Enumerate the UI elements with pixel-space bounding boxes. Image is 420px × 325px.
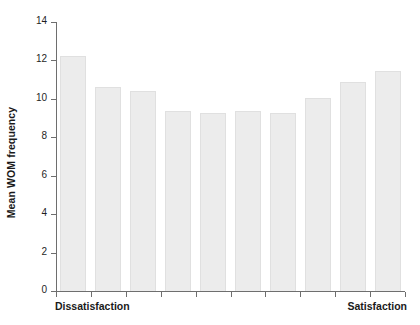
y-axis-line: [56, 22, 57, 292]
bar: [200, 113, 226, 291]
x-axis-tick: [231, 292, 232, 297]
plot-area: 02468101214 Dissatisfaction Satisfaction: [56, 22, 405, 291]
y-axis-tick-label: 8: [41, 130, 47, 141]
bar: [165, 111, 191, 291]
bar: [95, 87, 121, 291]
x-axis-tick: [161, 292, 162, 297]
bar: [305, 98, 331, 291]
x-axis-tick: [91, 292, 92, 297]
y-axis-tick-label: 14: [36, 15, 47, 26]
bar: [130, 91, 156, 291]
y-axis-title: Mean WOM frequency: [0, 0, 22, 325]
bar: [270, 113, 296, 291]
y-axis-tick: 14: [51, 22, 56, 23]
x-axis-tick: [300, 292, 301, 297]
y-axis-tick-label: 2: [41, 246, 47, 257]
bar: [60, 56, 86, 291]
y-axis-tick-label: 12: [36, 53, 47, 64]
y-axis-tick: 2: [51, 253, 56, 254]
bar: [375, 71, 401, 291]
y-axis-tick: 10: [51, 99, 56, 100]
x-axis-tick: [126, 292, 127, 297]
bar-chart-figure: Mean WOM frequency 02468101214 Dissatisf…: [0, 0, 420, 325]
y-axis-tick-label: 4: [41, 207, 47, 218]
y-axis-tick: 4: [51, 214, 56, 215]
y-axis-tick-label: 0: [41, 284, 47, 295]
x-axis-tick: [405, 292, 406, 297]
x-axis-tick: [370, 292, 371, 297]
y-axis-tick: 6: [51, 176, 56, 177]
bar: [340, 82, 366, 291]
x-axis-tick: [196, 292, 197, 297]
x-axis-tick: [56, 292, 57, 297]
x-axis-tick: [265, 292, 266, 297]
x-axis-right-endpoint-label: Satisfaction: [347, 300, 407, 312]
y-axis-tick-label: 10: [36, 92, 47, 103]
bar: [235, 111, 261, 291]
y-axis-tick: 12: [51, 60, 56, 61]
x-axis-left-endpoint-label: Dissatisfaction: [55, 300, 130, 312]
x-axis-tick: [335, 292, 336, 297]
y-axis-tick: 8: [51, 137, 56, 138]
y-axis-tick-label: 6: [41, 169, 47, 180]
